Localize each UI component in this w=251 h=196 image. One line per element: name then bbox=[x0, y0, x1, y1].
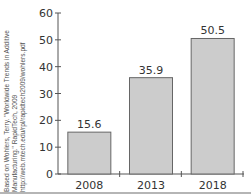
bar-value-label: 50.5 bbox=[200, 24, 225, 37]
y-tick-label: 10 bbox=[39, 141, 53, 154]
bar-value-label: 35.9 bbox=[139, 64, 164, 77]
bar-2018 bbox=[191, 38, 234, 174]
y-tick-label: 60 bbox=[39, 7, 53, 20]
x-category-label: 2018 bbox=[199, 179, 227, 192]
x-category-label: 2008 bbox=[75, 179, 103, 192]
y-tick-label: 0 bbox=[46, 168, 53, 181]
y-tick-label: 30 bbox=[39, 88, 53, 101]
bar-chart: 0102030405060 200820132018 15.635.950.5 bbox=[0, 0, 251, 196]
bars: 15.635.950.5 bbox=[68, 24, 234, 174]
y-axis: 0102030405060 bbox=[39, 7, 61, 181]
y-tick-label: 50 bbox=[39, 34, 53, 47]
y-tick-label: 40 bbox=[39, 61, 53, 74]
bar-2013 bbox=[130, 78, 173, 174]
x-category-label: 2013 bbox=[137, 179, 165, 192]
y-tick-label: 20 bbox=[39, 114, 53, 127]
bar-2008 bbox=[68, 132, 111, 174]
bottom-divider bbox=[0, 192, 251, 194]
bar-value-label: 15.6 bbox=[77, 118, 102, 131]
